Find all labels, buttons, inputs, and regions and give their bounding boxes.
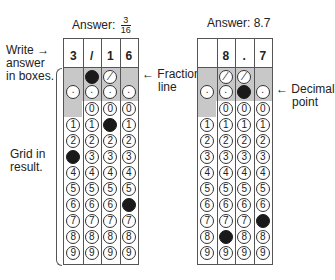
decimal-bubble[interactable]: . [122, 85, 136, 99]
fraction-label-line2: line [142, 81, 201, 94]
digit-bubble-3[interactable]: 3 [122, 150, 136, 164]
digit-bubble-5[interactable]: 5 [256, 182, 270, 196]
digit-bubble-9[interactable]: 9 [85, 246, 99, 260]
arrow-right-icon: → [37, 43, 49, 57]
digit-bubble-9[interactable]: 9 [219, 246, 233, 260]
fraction-line-label: ← Fraction line [142, 68, 201, 94]
grid2-answer-title: Answer: 8.7 [207, 16, 270, 30]
arrow-left-icon: ← [276, 82, 288, 96]
digit-bubble-1[interactable]: 1 [219, 118, 233, 132]
digit-bubble-4[interactable]: 4 [256, 166, 270, 180]
digit-bubble-7[interactable]: 7 [122, 214, 136, 228]
digit-bubble-3[interactable]: 3 [256, 150, 270, 164]
write-answer-label: Write → answer in boxes. [6, 44, 54, 83]
digit-bubble-6[interactable]: 6 [85, 198, 99, 212]
grid-bracket [56, 68, 62, 266]
digit-bubble-8[interactable]: 8 [219, 230, 233, 244]
digit-bubble-9[interactable]: 9 [256, 246, 270, 260]
grid1-answer-title: Answer: 3 16 [72, 16, 131, 35]
decimal-bubble[interactable]: . [256, 85, 270, 99]
answer-grid-decimal: 8.7.123456789⁄.0123456789⁄.0123456789.01… [197, 38, 273, 265]
answer-grid-fraction: 3/16.123456789/.0123456789⁄.0123456789.0… [63, 38, 139, 265]
digit-bubble-1[interactable]: 1 [256, 118, 270, 132]
answer-fraction: 3 16 [121, 16, 131, 35]
digit-bubble-5[interactable]: 5 [85, 182, 99, 196]
decimal-label-line1: Decimal [291, 82, 334, 96]
digit-bubble-1[interactable]: 1 [85, 118, 99, 132]
digit-bubble-7[interactable]: 7 [85, 214, 99, 228]
digit-bubble-0[interactable]: 0 [256, 102, 270, 116]
digit-bubble-3[interactable]: 3 [219, 150, 233, 164]
digit-bubble-8[interactable]: 8 [122, 230, 136, 244]
digit-bubble-0[interactable]: 0 [219, 102, 233, 116]
slash-bubble[interactable]: ⁄ [219, 70, 233, 84]
digit-bubble-4[interactable]: 4 [122, 166, 136, 180]
digit-bubble-0[interactable]: 0 [85, 102, 99, 116]
fraction-denominator: 16 [121, 26, 131, 35]
grid-in-label: Grid in result. [10, 148, 45, 174]
digit-bubble-7[interactable]: 7 [256, 214, 270, 228]
digit-bubble-5[interactable]: 5 [219, 182, 233, 196]
decimal-bubble[interactable]: . [85, 85, 99, 99]
digit-bubble-3[interactable]: 3 [85, 150, 99, 164]
digit-bubble-2[interactable]: 2 [219, 134, 233, 148]
digit-bubble-0[interactable]: 0 [122, 102, 136, 116]
slash-bubble[interactable]: / [85, 70, 99, 84]
digit-bubble-2[interactable]: 2 [85, 134, 99, 148]
digit-bubble-4[interactable]: 4 [219, 166, 233, 180]
digit-bubble-2[interactable]: 2 [122, 134, 136, 148]
grid-in-line2: result. [10, 161, 45, 174]
arrow-left-icon: ← [142, 67, 154, 81]
decimal-point-label: ← Decimal point [276, 83, 335, 109]
digit-bubble-6[interactable]: 6 [219, 198, 233, 212]
digit-bubble-7[interactable]: 7 [219, 214, 233, 228]
digit-bubble-9[interactable]: 9 [122, 246, 136, 260]
digit-bubble-6[interactable]: 6 [122, 198, 136, 212]
digit-bubble-6[interactable]: 6 [256, 198, 270, 212]
write-label-line1: Write [6, 43, 34, 57]
digit-bubble-2[interactable]: 2 [256, 134, 270, 148]
digit-bubble-1[interactable]: 1 [122, 118, 136, 132]
digit-bubble-8[interactable]: 8 [256, 230, 270, 244]
decimal-bubble[interactable]: . [219, 85, 233, 99]
write-label-line3: in boxes. [6, 70, 54, 83]
digit-bubble-4[interactable]: 4 [85, 166, 99, 180]
digit-bubble-5[interactable]: 5 [122, 182, 136, 196]
digit-bubble-8[interactable]: 8 [85, 230, 99, 244]
fraction-label-line1: Fraction [157, 67, 200, 81]
decimal-label-line2: point [276, 96, 335, 109]
answer-label: Answer: [72, 18, 115, 32]
